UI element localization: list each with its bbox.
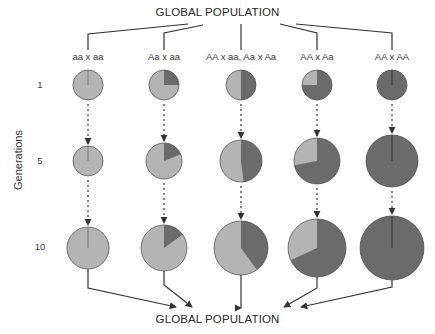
branch-line <box>88 24 188 50</box>
generation-label-10: 10 <box>28 241 52 252</box>
pie-chart <box>366 135 418 187</box>
pie-chart <box>214 221 268 275</box>
pie-chart <box>288 219 346 277</box>
pie-chart <box>226 70 256 100</box>
merge-arrow <box>284 277 317 307</box>
pie-chart <box>146 143 182 179</box>
merge-arrow <box>88 269 176 307</box>
generations-axis-label: Generations <box>12 120 24 200</box>
pie-chart <box>377 70 407 100</box>
pie-chart <box>141 225 187 271</box>
pie-chart <box>302 70 332 100</box>
generation-label-5: 5 <box>28 155 52 166</box>
generation-label-1: 1 <box>28 79 52 90</box>
pie-chart <box>73 70 103 100</box>
pie-chart <box>149 70 179 100</box>
bottom-title: GLOBAL POPULATION <box>0 313 435 325</box>
pie-chart <box>294 138 340 184</box>
pie-grid <box>67 70 424 280</box>
merge-arrow <box>164 271 192 307</box>
pie-chart <box>220 140 262 182</box>
pie-dark-slice <box>241 70 256 100</box>
pie-chart <box>67 227 109 269</box>
pie-chart <box>360 216 424 280</box>
top-title: GLOBAL POPULATION <box>0 6 435 18</box>
branch-lines <box>88 24 392 50</box>
merge-arrow <box>301 280 392 307</box>
pie-dark-slice <box>241 140 262 182</box>
branch-line <box>296 24 392 50</box>
pie-chart <box>73 146 103 176</box>
branch-line <box>280 24 317 50</box>
cross-label-AA-AA: AA x AA <box>332 51 435 62</box>
branch-line <box>164 25 203 50</box>
